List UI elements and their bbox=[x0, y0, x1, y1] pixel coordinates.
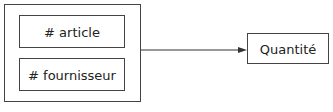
quantite-label: Quantité bbox=[248, 41, 328, 56]
quantite-box: Quantité bbox=[247, 33, 329, 64]
arrowhead-icon bbox=[238, 47, 247, 53]
